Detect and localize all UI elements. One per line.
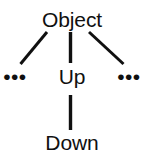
edge-object-to-left-ellipsis bbox=[21, 32, 48, 64]
node-object: Object bbox=[0, 9, 144, 30]
node-down: Down bbox=[0, 132, 144, 153]
node-ellipsis-right: ••• bbox=[114, 66, 144, 87]
edge-object-to-right-ellipsis bbox=[89, 32, 124, 64]
class-hierarchy-diagram: Object Up Down ••• ••• bbox=[0, 0, 144, 160]
node-ellipsis-left: ••• bbox=[0, 66, 30, 87]
